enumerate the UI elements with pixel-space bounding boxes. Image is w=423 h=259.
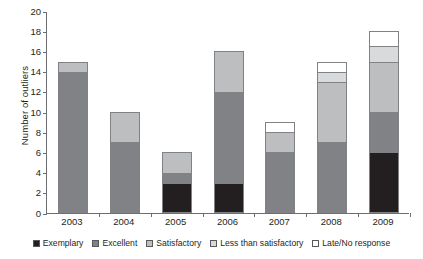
bar-segment[interactable]	[58, 72, 88, 213]
bar-segment[interactable]	[317, 72, 347, 82]
bar-segment[interactable]	[110, 142, 140, 213]
y-tick-label: 12	[19, 86, 41, 97]
y-tick-label: 2	[19, 187, 41, 198]
bar-segment[interactable]	[214, 183, 244, 213]
bar-segment[interactable]	[265, 122, 295, 132]
y-tick-label: 8	[19, 127, 41, 138]
legend-swatch-icon	[146, 240, 153, 247]
bar-segment[interactable]	[317, 82, 347, 143]
legend-swatch-icon	[312, 240, 319, 247]
legend-label: Late/No response	[322, 238, 390, 248]
bar-group[interactable]	[110, 112, 140, 213]
stacked-bar-chart: Number of outliers 02468101214161820 200…	[0, 0, 423, 259]
legend-item[interactable]: Late/No response	[312, 238, 390, 248]
legend-swatch-icon	[210, 240, 217, 247]
bar-segment[interactable]	[369, 112, 399, 152]
y-tick-label: 10	[19, 107, 41, 118]
legend-item[interactable]: Exemplary	[33, 238, 84, 248]
bar-segment[interactable]	[265, 132, 295, 152]
legend-label: Satisfactory	[156, 238, 201, 248]
y-tick-label: 14	[19, 66, 41, 77]
y-tick-label: 4	[19, 167, 41, 178]
x-axis-label: 2009	[353, 216, 413, 227]
bar-segment[interactable]	[214, 51, 244, 91]
legend-label: Less than satisfactory	[220, 238, 303, 248]
bar-segment[interactable]	[369, 152, 399, 213]
legend-item[interactable]: Satisfactory	[146, 238, 201, 248]
y-tick-label: 16	[19, 46, 41, 57]
legend-label: Exemplary	[43, 238, 84, 248]
bar-group[interactable]	[317, 62, 347, 213]
legend-item[interactable]: Less than satisfactory	[210, 238, 303, 248]
bar-segment[interactable]	[317, 62, 347, 72]
y-tick-label: 6	[19, 147, 41, 158]
bar-series-container	[47, 12, 409, 213]
bar-group[interactable]	[265, 122, 295, 213]
bar-segment[interactable]	[317, 142, 347, 213]
bar-segment[interactable]	[110, 112, 140, 142]
bar-segment[interactable]	[369, 46, 399, 61]
bar-segment[interactable]	[162, 152, 192, 172]
chart-legend: ExemplaryExcellentSatisfactoryLess than …	[0, 238, 423, 248]
plot-area: 02468101214161820	[46, 12, 409, 214]
bar-segment[interactable]	[162, 173, 192, 183]
bar-group[interactable]	[162, 152, 192, 213]
y-tick-mark	[43, 214, 47, 215]
bar-segment[interactable]	[369, 31, 399, 46]
bar-segment[interactable]	[369, 62, 399, 113]
legend-item[interactable]: Excellent	[92, 238, 137, 248]
bar-group[interactable]	[214, 51, 244, 213]
y-tick-label: 0	[19, 208, 41, 219]
bar-group[interactable]	[369, 31, 399, 213]
legend-swatch-icon	[33, 240, 40, 247]
y-tick-label: 20	[19, 6, 41, 17]
bar-segment[interactable]	[58, 62, 88, 72]
bar-segment[interactable]	[214, 92, 244, 183]
legend-swatch-icon	[92, 240, 99, 247]
bar-segment[interactable]	[265, 152, 295, 213]
y-tick-label: 18	[19, 26, 41, 37]
bar-group[interactable]	[58, 62, 88, 213]
bar-segment[interactable]	[162, 183, 192, 213]
legend-label: Excellent	[102, 238, 137, 248]
